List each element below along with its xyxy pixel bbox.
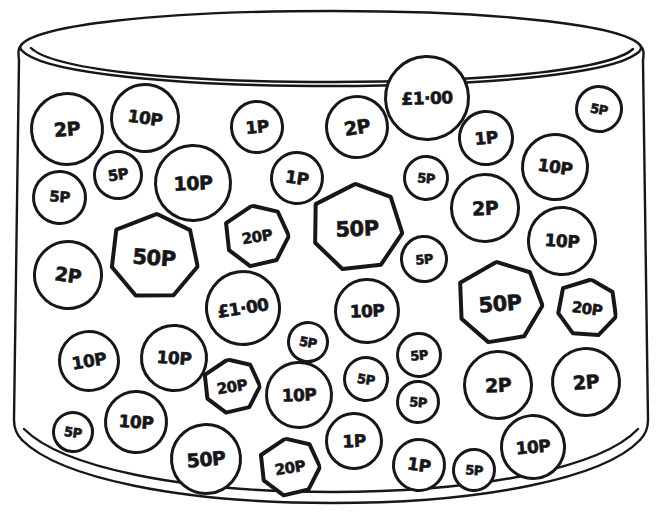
coin-50p[interactable]: 50P	[452, 256, 547, 351]
coin-denomination-label: 10P	[118, 412, 154, 431]
coin-20p[interactable]: 20P	[219, 199, 295, 275]
jar-rim-outer-right	[20, 44, 636, 86]
coin-denomination-label: 5P	[356, 371, 375, 386]
coin-20p[interactable]: 20P	[255, 433, 326, 504]
coin-50p[interactable]: 50P	[308, 180, 405, 277]
coin-denomination-label: 5P	[107, 166, 130, 184]
jar-rim-outer	[22, 11, 641, 54]
coin-denomination-label: 2P	[472, 198, 499, 218]
coin-denomination-label: 50P	[335, 218, 379, 240]
coin-denomination-label: 20P	[571, 299, 603, 318]
coin-denomination-label: 5P	[49, 189, 70, 205]
coin-20p[interactable]: 20P	[552, 274, 622, 344]
coin-denomination-label: 1P	[342, 432, 366, 450]
coin-denomination-label: 10P	[71, 350, 108, 372]
coin-denomination-label: 10P	[515, 437, 551, 457]
coin-denomination-label: 5P	[298, 334, 318, 350]
coin-denomination-label: 5P	[465, 463, 483, 477]
coin-denomination-label: 2P	[485, 375, 512, 395]
coin-denomination-label: 1P	[284, 168, 309, 188]
coin-denomination-label: 5P	[410, 348, 429, 362]
jar-wall-right	[640, 45, 648, 440]
coin-denomination-label: 2P	[53, 118, 81, 139]
coin-denomination-label: 2P	[54, 264, 83, 286]
jar-wall-left	[14, 44, 22, 440]
coin-denomination-label: 5P	[589, 101, 609, 117]
coin-denomination-label: 2P	[572, 371, 600, 392]
coin-denomination-label: 1P	[406, 455, 431, 475]
coin-denomination-label: £1·00	[401, 89, 453, 108]
coin-denomination-label: 2P	[343, 116, 372, 139]
coin-20p[interactable]: 20P	[199, 354, 265, 420]
coin-denomination-label: 50P	[132, 246, 176, 270]
coin-denomination-label: 10P	[544, 231, 580, 250]
coin-denomination-label: 5P	[63, 424, 82, 439]
coin-denomination-label: 10P	[156, 348, 192, 367]
coin-denomination-label: 50P	[478, 292, 523, 317]
coin-denomination-label: 5P	[415, 252, 434, 266]
coin-denomination-label: 1P	[245, 118, 270, 137]
coin-denomination-label: 10P	[349, 302, 384, 320]
coin-denomination-label: 50P	[186, 448, 226, 470]
coin-jar-illustration: 2P10P5P5P10P1P1P2P£1·005P1P5P10P2P10P20P…	[0, 0, 660, 530]
coin-denomination-label: 10P	[127, 107, 164, 129]
coin-denomination-label: 5P	[409, 395, 427, 409]
coin-denomination-label: 5P	[417, 171, 435, 185]
coin-denomination-label: 10P	[173, 173, 213, 193]
coin-denomination-label: 10P	[537, 156, 574, 178]
coin-50p[interactable]: 50P	[105, 209, 203, 307]
coin-denomination-label: £1·00	[216, 296, 269, 321]
coin-denomination-label: 1P	[474, 129, 499, 148]
coin-denomination-label: 10P	[281, 386, 316, 404]
